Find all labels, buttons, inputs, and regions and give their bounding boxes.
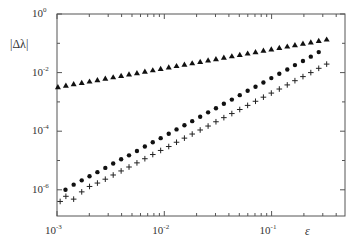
circle-marker [143,144,147,148]
triangle-marker [268,46,274,51]
circle-marker [214,106,218,110]
circle-marker [277,72,281,76]
triangle-marker [87,78,93,83]
triangle-marker [245,50,251,55]
plus-marker [110,172,116,178]
circle-marker [111,161,115,165]
plus-marker [308,70,314,76]
circle-marker [71,182,75,186]
plus-marker [174,139,180,145]
circle-marker [182,123,186,127]
triangle-marker [237,52,243,57]
circle-marker [309,54,313,58]
plus-marker [142,156,148,162]
x-axis-label: ε [305,224,310,239]
plus-marker [103,176,109,182]
triangle-marker [213,56,219,61]
circle-marker [222,102,226,106]
circle-marker [206,110,210,114]
triangle-marker [292,42,298,47]
plus-marker [87,184,93,190]
plus-marker [63,194,69,200]
circle-marker [317,50,321,54]
plus-marker [150,152,156,158]
plot-area [0,0,356,245]
y-tick-label: 100 [32,6,47,19]
plus-marker [261,94,267,100]
triangle-marker [79,80,85,85]
plus-marker [277,86,283,92]
x-tick-label: 10-1 [260,223,277,236]
plus-marker [182,135,188,141]
triangle-marker [134,70,140,75]
circle-marker [293,63,297,67]
triangle-marker [126,71,132,76]
circle-marker [87,174,91,178]
triangle-marker [158,66,164,71]
triangle-marker [102,75,108,80]
circle-marker [245,89,249,93]
plus-marker [253,98,259,104]
data-markers [55,36,330,204]
plus-marker [205,123,211,129]
plus-marker [292,78,298,84]
triangle-marker [253,49,259,54]
plus-marker [324,61,330,67]
triangle-marker [174,63,180,68]
triangle-marker [71,81,77,86]
circle-marker [174,127,178,131]
triangle-marker [63,83,69,88]
plus-marker [158,148,164,154]
plus-marker [79,189,85,195]
circle-marker [230,97,234,101]
circle-marker [63,188,67,192]
circle-marker [261,80,265,84]
triangle-marker [324,36,330,41]
y-axis-label: |Δλ| [10,37,28,52]
triangle-marker [189,60,195,65]
triangle-marker [166,64,172,69]
triangle-marker [221,55,227,60]
triangle-marker [308,39,314,44]
x-tick-label: 10-3 [45,223,62,236]
triangle-marker [150,67,156,72]
x-tick-label: 10-2 [152,223,169,236]
circle-marker [269,76,273,80]
triangle-marker [142,69,148,74]
plus-marker [300,74,306,80]
triangle-marker [284,43,290,48]
plus-marker [118,168,124,174]
triangle-marker [94,77,100,82]
plus-marker [57,199,63,205]
circle-marker [167,132,171,136]
circle-marker [95,170,99,174]
triangle-marker [181,62,187,67]
triangle-marker [300,41,306,46]
circle-marker [119,157,123,161]
plus-marker [229,111,235,117]
circle-marker [103,166,107,170]
plus-marker [269,90,275,96]
plus-marker [166,144,172,150]
triangle-marker [205,57,211,62]
plus-marker [316,66,322,72]
y-tick-label: 10-4 [32,123,49,136]
circle-marker [135,149,139,153]
circle-marker [190,119,194,123]
triangle-marker [260,48,266,53]
circle-marker [198,115,202,119]
plus-marker [221,115,227,121]
triangle-marker [118,73,124,78]
plus-marker [189,131,195,137]
plus-marker [213,119,219,125]
plus-marker [126,164,132,170]
plus-marker [245,103,251,109]
triangle-marker [197,59,203,64]
circle-marker [80,178,84,182]
triangle-marker [276,45,282,50]
triangle-marker [55,84,61,89]
circle-marker [301,59,305,63]
circle-marker [238,93,242,97]
plus-marker [284,82,290,88]
circle-marker [158,136,162,140]
